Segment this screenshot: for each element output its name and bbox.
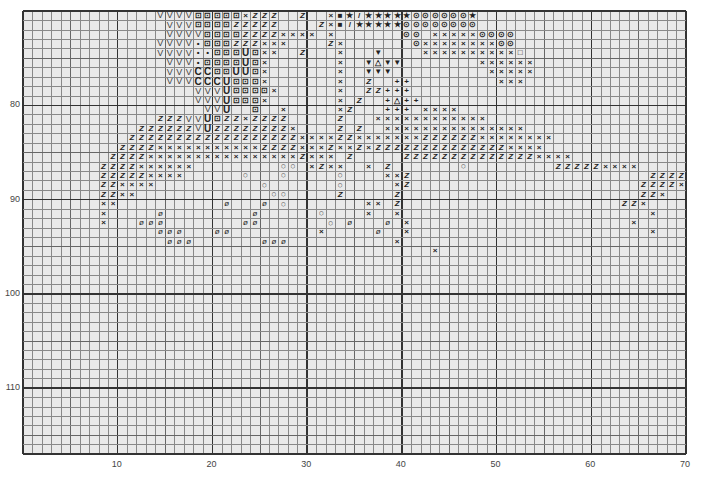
stitch-cell: ×: [449, 30, 458, 39]
stitch-cell: ø: [373, 228, 382, 237]
stitch-cell: Z: [222, 134, 231, 143]
stitch-cell: +: [392, 86, 401, 95]
stitch-cell: ×: [534, 134, 543, 143]
grid-line-horizontal: [23, 407, 686, 408]
stitch-cell: ×: [534, 143, 543, 152]
stitch-cell: ×: [459, 49, 468, 58]
x-axis-label: 60: [585, 459, 595, 469]
stitch-cell: Z: [402, 181, 411, 190]
stitch-cell: ⊡: [231, 77, 240, 86]
stitch-cell: V: [175, 11, 184, 20]
stitch-cell: Z: [108, 181, 117, 190]
stitch-cell: ⊙: [497, 30, 506, 39]
stitch-cell: Z: [392, 190, 401, 199]
stitch-cell: Z: [99, 190, 108, 199]
stitch-cell: ⊡: [212, 39, 221, 48]
stitch-cell: +: [383, 96, 392, 105]
stitch-cell: Z: [175, 124, 184, 133]
stitch-cell: •: [193, 49, 202, 58]
stitch-cell: ×: [392, 124, 401, 133]
stitch-cell: ×: [175, 171, 184, 180]
stitch-cell: ★: [364, 20, 373, 29]
stitch-cell: ×: [478, 124, 487, 133]
stitch-cell: ø: [165, 228, 174, 237]
stitch-cell: •: [193, 39, 202, 48]
stitch-cell: ×: [506, 68, 515, 77]
stitch-cell: Z: [497, 152, 506, 161]
grid-line-horizontal: [23, 435, 686, 436]
stitch-cell: Z: [392, 200, 401, 209]
stitch-cell: ×: [430, 115, 439, 124]
stitch-cell: Z: [326, 39, 335, 48]
x-axis-label: 20: [206, 459, 216, 469]
stitch-cell: ×: [478, 134, 487, 143]
stitch-cell: ×: [440, 115, 449, 124]
stitch-cell: Z: [165, 134, 174, 143]
stitch-cell: ×: [212, 143, 221, 152]
stitch-cell: Z: [288, 134, 297, 143]
stitch-cell: ×: [383, 134, 392, 143]
stitch-cell: ×: [222, 143, 231, 152]
stitch-cell: Z: [146, 134, 155, 143]
stitch-cell: ×: [629, 218, 638, 227]
stitch-cell: ×: [336, 105, 345, 114]
stitch-cell: ×: [156, 171, 165, 180]
stitch-cell: ×: [430, 105, 439, 114]
x-axis-label: 50: [491, 459, 501, 469]
stitch-cell: ×: [118, 181, 127, 190]
stitch-cell: Z: [212, 134, 221, 143]
stitch-cell: ×: [487, 124, 496, 133]
stitch-cell: ★: [373, 20, 382, 29]
stitch-cell: Z: [449, 134, 458, 143]
stitch-cell: Z: [165, 115, 174, 124]
stitch-cell: Z: [440, 143, 449, 152]
stitch-cell: ⊙: [449, 20, 458, 29]
stitch-cell: ×: [260, 58, 269, 67]
stitch-cell: ×: [193, 143, 202, 152]
stitch-cell: Z: [222, 124, 231, 133]
stitch-cell: ×: [336, 39, 345, 48]
grid-line-horizontal: [23, 48, 686, 49]
stitch-cell: ×: [317, 134, 326, 143]
stitch-cell: ×: [421, 39, 430, 48]
stitch-cell: ×: [231, 152, 240, 161]
stitch-cell: ×: [326, 162, 335, 171]
stitch-cell: ○: [459, 162, 468, 171]
stitch-cell: ★: [345, 11, 354, 20]
stitch-cell: ×: [364, 162, 373, 171]
stitch-cell: ×: [525, 58, 534, 67]
stitch-cell: ×: [421, 115, 430, 124]
stitch-cell: Z: [317, 20, 326, 29]
stitch-cell: ×: [260, 68, 269, 77]
stitch-cell: ⊡: [250, 105, 259, 114]
stitch-cell: ⊙: [421, 11, 430, 20]
stitch-cell: U: [241, 68, 250, 77]
stitch-cell: ×: [260, 77, 269, 86]
stitch-cell: +: [392, 105, 401, 114]
stitch-cell: ×: [156, 143, 165, 152]
stitch-cell: ×: [459, 115, 468, 124]
stitch-cell: Z: [269, 143, 278, 152]
stitch-cell: Z: [156, 115, 165, 124]
stitch-cell: Z: [118, 152, 127, 161]
stitch-cell: ×: [487, 134, 496, 143]
stitch-cell: ×: [497, 49, 506, 58]
stitch-cell: ×: [307, 152, 316, 161]
grid-line-horizontal: [23, 425, 686, 426]
stitch-cell: ×: [99, 200, 108, 209]
stitch-cell: ×: [345, 143, 354, 152]
stitch-cell: Z: [250, 11, 259, 20]
stitch-cell: ø: [146, 218, 155, 227]
stitch-cell: ×: [506, 58, 515, 67]
stitch-cell: ⊙: [411, 20, 420, 29]
stitch-cell: Z: [336, 134, 345, 143]
stitch-cell: ×: [468, 39, 477, 48]
stitch-cell: ⊙: [430, 20, 439, 29]
stitch-cell: ×: [250, 143, 259, 152]
stitch-cell: Z: [639, 190, 648, 199]
stitch-cell: ×: [487, 39, 496, 48]
stitch-cell: ⊡: [250, 86, 259, 95]
grid-line-horizontal: [23, 67, 686, 68]
stitch-cell: ×: [402, 134, 411, 143]
stitch-cell: ×: [99, 209, 108, 218]
